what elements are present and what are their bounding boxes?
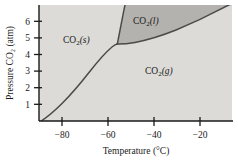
liquid-label-state: (l) [150,16,159,27]
y-tick-label-4: 4 [25,50,30,60]
y-axis-title: Pressure CO₂ (atm) [5,26,16,100]
x-tick-label-minus60: −60 [101,130,116,140]
co2-phase-diagram-figure: 1 2 3 4 5 6 −80 −60 −40 −20 Temperature … [0,0,238,160]
gas-label-main: CO [145,66,158,76]
y-tick-label-6: 6 [25,17,30,27]
phase-diagram-canvas: 1 2 3 4 5 6 −80 −60 −40 −20 Temperature … [0,0,238,160]
x-axis-title: Temperature (°C) [103,146,170,157]
y-tick-label-1: 1 [25,100,30,110]
x-tick-label-minus40: −40 [147,130,162,140]
x-tick-label-minus80: −80 [55,130,70,140]
solid-label-state: (s) [80,35,90,46]
solid-label-main: CO [63,35,76,45]
y-tick-label-5: 5 [25,33,30,43]
y-tick-label-2: 2 [25,83,30,93]
x-tick-label-minus20: −20 [193,130,208,140]
gas-label-state: (g) [162,66,173,77]
liquid-label-main: CO [133,16,146,26]
y-tick-label-3: 3 [25,66,30,76]
